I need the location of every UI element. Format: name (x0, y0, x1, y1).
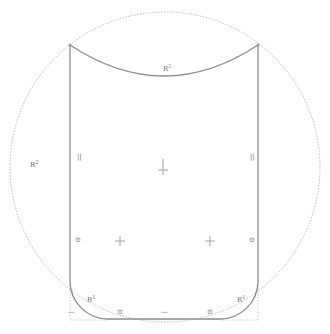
annotation-text: — (161, 308, 168, 316)
annotation-sup: 2 (35, 159, 38, 165)
annotation-sup: 2 (168, 63, 171, 69)
annotation-sup: 1 (242, 294, 245, 300)
vertex-point-top-right[interactable] (257, 44, 260, 47)
annotation-fillet-left[interactable]: R1 (87, 295, 95, 304)
annotation-text: || (77, 153, 82, 161)
annotation-tangent-left-top[interactable]: ⊙ (75, 237, 81, 244)
annotation-text: ⊙ (207, 308, 213, 316)
annotation-sup: 1 (92, 294, 95, 300)
annotation-tangent-right-top[interactable]: ⊙ (249, 237, 255, 244)
center-marker-icon (158, 159, 168, 175)
sketch-canvas[interactable] (0, 0, 330, 334)
annotation-tangent-right-bottom[interactable]: ⊙ (207, 309, 213, 316)
annotation-horizontal-bottom-left[interactable]: — (68, 309, 75, 316)
annotation-text: ⊙ (117, 308, 123, 316)
annotation-text: — (68, 308, 75, 316)
center-marker-icon (205, 236, 215, 246)
annotation-circle-radius[interactable]: R2 (30, 160, 38, 169)
vertex-point-top-left[interactable] (69, 44, 72, 47)
construction-circle[interactable] (10, 12, 320, 322)
annotation-parallel-right[interactable]: || (250, 154, 255, 161)
annotation-horizontal-bottom[interactable]: — (161, 309, 168, 316)
annotation-text: ⊙ (75, 236, 81, 244)
annotation-fillet-right[interactable]: R1 (237, 295, 245, 304)
annotation-top-arc-radius[interactable]: R2 (163, 64, 171, 73)
annotation-tangent-left-bottom[interactable]: ⊙ (117, 309, 123, 316)
annotation-text: || (250, 153, 255, 161)
annotation-text: ⊙ (249, 236, 255, 244)
center-marker-icon (115, 236, 125, 246)
annotation-parallel-left[interactable]: || (77, 154, 82, 161)
profile-outline[interactable] (70, 45, 258, 319)
